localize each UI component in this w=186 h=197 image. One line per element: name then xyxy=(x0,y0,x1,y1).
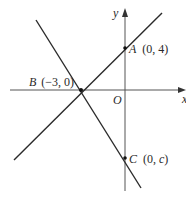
x-axis-label: x xyxy=(181,92,186,106)
point-C-label: C (0, c) xyxy=(129,152,168,166)
point-A-name: A xyxy=(128,42,137,56)
point-C xyxy=(123,156,127,160)
origin-label: O xyxy=(113,93,122,107)
diagram-canvas: y x O A (0, 4) B (−3, 0) C (0, c) xyxy=(0,0,186,197)
point-B-name: B xyxy=(29,75,37,89)
point-B-label: B (−3, 0) xyxy=(29,75,74,89)
coordinate-plane: y x O A (0, 4) B (−3, 0) C (0, c) xyxy=(0,0,186,197)
point-A xyxy=(123,46,127,50)
point-C-name: C xyxy=(129,152,138,166)
point-A-coords: (0, 4) xyxy=(142,42,168,56)
point-B-coords: (−3, 0) xyxy=(41,75,74,89)
point-C-coords-post: ) xyxy=(164,152,168,166)
y-axis-label: y xyxy=(112,6,119,20)
point-B xyxy=(79,88,83,92)
point-C-coords-pre: (0, xyxy=(143,152,159,166)
y-axis-arrow-icon xyxy=(122,8,128,17)
point-A-label: A (0, 4) xyxy=(128,42,168,56)
